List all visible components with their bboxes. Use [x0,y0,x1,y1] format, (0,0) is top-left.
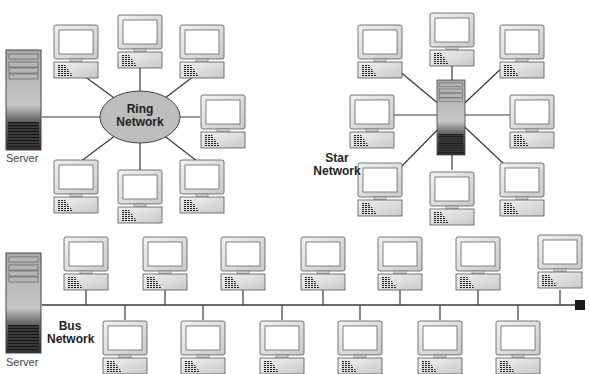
computer-icon [358,25,402,78]
computer-icon [180,25,224,78]
computer-icon [496,321,540,374]
computer-icon [118,15,162,68]
computer-icon [54,160,98,213]
computer-icon [338,321,382,374]
computer-icon [181,321,225,374]
computer-icon [301,237,345,290]
computer-icon [538,235,582,288]
computer-icon [510,95,554,148]
computer-icon [500,25,544,78]
bus-server-label: Server [6,356,38,368]
computer-icon [143,237,187,290]
computer-icon [500,163,544,216]
computer-icon [54,25,98,78]
computer-icon [64,237,108,290]
computer-icon [103,321,147,374]
computer-icon [430,172,474,225]
computer-icon [118,170,162,223]
bus-network-label: Bus Network [47,320,93,346]
bus-server-icon [6,253,41,353]
ring-network-label: Ring Network [110,103,170,129]
star-network-label: Star Network [312,152,362,178]
computer-icon [378,237,422,290]
bus-terminator [575,300,585,310]
computer-icon [418,321,462,374]
computer-icon [456,237,500,290]
computer-icon [201,95,245,148]
star-network [350,13,554,225]
ring-server-label: Server [6,152,38,164]
computer-icon [430,13,474,66]
computer-icon [350,95,394,148]
ring-server-icon [6,50,41,150]
computer-icon [180,160,224,213]
network-topology-diagram [0,0,590,374]
bus-network [6,235,585,374]
computer-icon [221,237,265,290]
computer-icon [358,163,402,216]
star-hub-server-icon [437,80,465,155]
computer-icon [260,321,304,374]
